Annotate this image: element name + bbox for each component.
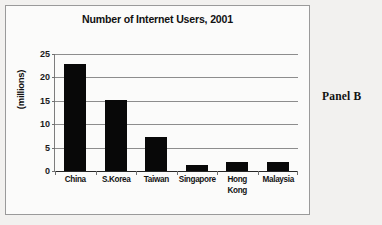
y-tick-label: 20 <box>40 73 50 82</box>
x-axis-label: Taiwan <box>137 174 175 185</box>
y-tick-label: 15 <box>40 96 50 105</box>
bar[interactable] <box>226 162 248 171</box>
x-axis-label: Singapore <box>178 174 216 185</box>
x-axis-label-line: S.Korea <box>97 174 135 185</box>
plot-area: 0510152025 <box>55 54 298 171</box>
x-axis-label: S.Korea <box>97 174 135 185</box>
bar-slot <box>258 54 299 171</box>
bar[interactable] <box>267 162 289 171</box>
bar[interactable] <box>105 100 127 171</box>
y-tick-label: 10 <box>40 120 50 129</box>
x-axis-labels: ChinaS.KoreaTaiwanSingaporeHongKongMalay… <box>55 174 298 214</box>
y-tick-label: 25 <box>40 50 50 59</box>
chart-frame: Number of Internet Users, 2001 (millions… <box>5 5 310 215</box>
x-axis-label-line: Kong <box>218 185 256 196</box>
x-axis-label: China <box>56 174 94 185</box>
bar-slot <box>217 54 258 171</box>
bar[interactable] <box>64 64 86 171</box>
x-axis-label-line: Hong <box>218 174 256 185</box>
y-tick-label: 0 <box>45 167 50 176</box>
x-axis-label: HongKong <box>218 174 256 196</box>
chart-title: Number of Internet Users, 2001 <box>18 13 297 25</box>
x-axis-label-line: Taiwan <box>137 174 175 185</box>
x-axis-label: Malaysia <box>259 174 297 185</box>
bar-slot <box>136 54 177 171</box>
bar[interactable] <box>186 165 208 171</box>
x-axis-label-line: Singapore <box>178 174 216 185</box>
y-tick-label: 5 <box>45 143 50 152</box>
y-axis-title: (millions) <box>15 60 26 120</box>
bar-slot <box>55 54 96 171</box>
bars-group <box>55 54 298 171</box>
bar-slot <box>177 54 218 171</box>
bar-slot <box>96 54 137 171</box>
x-axis-label-line: Malaysia <box>259 174 297 185</box>
x-axis-label-line: China <box>56 174 94 185</box>
bar[interactable] <box>145 137 167 171</box>
panel-caption: Panel B <box>322 90 361 102</box>
